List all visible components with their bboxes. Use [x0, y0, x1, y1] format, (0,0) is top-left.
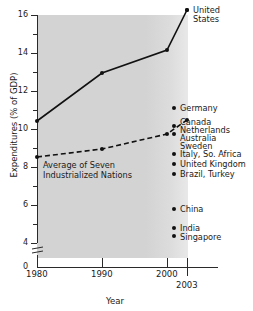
label-united-states-line2: States — [193, 15, 220, 24]
marker-australia-sweden — [172, 132, 176, 136]
average-annotation-line1: Average of Seven — [43, 160, 132, 170]
label-germany: Germany — [180, 104, 218, 113]
marker-united-states — [185, 8, 189, 12]
us-point-1990 — [100, 71, 104, 75]
us-series-line — [37, 10, 187, 121]
us-point-2000 — [165, 48, 169, 52]
marker-india — [172, 226, 176, 230]
marker-singapore — [172, 234, 176, 238]
average-annotation-line2: Industrialized Nations — [43, 170, 132, 180]
us-point-1980 — [35, 119, 39, 123]
marker-brazil-turkey — [172, 172, 176, 176]
avg-point-1990 — [100, 147, 104, 151]
label-china: China — [180, 205, 203, 214]
marker-italy-so-africa — [172, 152, 176, 156]
average-annotation: Average of Seven Industrialized Nations — [43, 160, 132, 180]
marker-united-kingdom — [172, 162, 176, 166]
label-italy-so-africa: Italy, So. Africa — [180, 150, 242, 159]
marker-china — [172, 207, 176, 211]
marker-germany — [172, 106, 176, 110]
label-brazil-turkey: Brazil, Turkey — [180, 170, 235, 179]
marker-canada-netherlands — [172, 124, 176, 128]
avg-point-2000 — [165, 132, 169, 136]
label-united-states: United States — [193, 6, 220, 24]
expenditure-chart: 16 14 12 10 8 6 4 0 1980 1990 2000 2003 … — [0, 0, 253, 311]
label-united-kingdom: United Kingdom — [180, 160, 246, 169]
average-series-line — [37, 120, 187, 157]
label-singapore: Singapore — [180, 233, 221, 242]
avg-point-1980 — [35, 155, 39, 159]
